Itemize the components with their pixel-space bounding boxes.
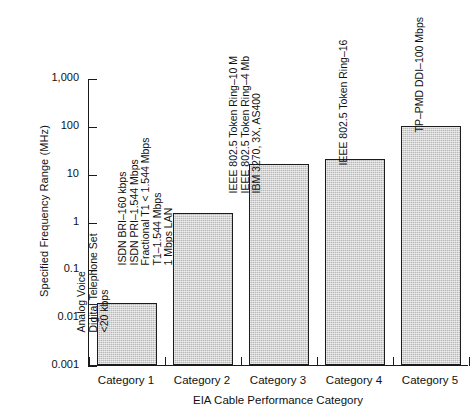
x-tick-mark [317, 357, 318, 366]
y-tick-label: 1,000 [9, 71, 79, 83]
y-tick-label: 0.001 [9, 358, 79, 370]
bar [173, 213, 233, 365]
bar-annotation: TP–PMD DDI–100 Mbps [414, 17, 426, 133]
category-label: Category 1 [88, 374, 164, 386]
x-tick-mark [241, 357, 242, 366]
bar-chart: Specified Frequency Range (MHz) 1,000100… [0, 0, 475, 416]
y-tick-label: 100 [9, 119, 79, 131]
y-tick-mark [88, 366, 97, 367]
bar-annotation: IEEE 802.5 Token Ring–16 [338, 40, 350, 166]
x-tick-mark [393, 357, 394, 366]
y-tick-label: 10 [9, 167, 79, 179]
bar [249, 164, 309, 365]
x-tick-mark [165, 357, 166, 366]
bar-annotation: ISDN BRI–160 kbpsISDN PRI–1.544 MbpsFrac… [117, 138, 175, 266]
category-label: Category 2 [164, 374, 240, 386]
y-tick-label: 1 [9, 215, 79, 227]
y-tick-label: 0.01 [9, 310, 79, 322]
y-tick-mark [88, 175, 97, 176]
bar [401, 126, 461, 365]
category-label: Category 4 [316, 374, 392, 386]
bar [325, 159, 385, 365]
annotation-line: IBM 3270, 3X, AS400 [250, 56, 262, 194]
annotation-line: TP–PMD DDI–100 Mbps [414, 17, 426, 133]
annotation-line: <20 kbps [98, 233, 110, 332]
x-tick-mark [89, 357, 90, 366]
annotation-line: IEEE 802.5 Token Ring–16 [338, 40, 350, 166]
annotation-line: IEEE 802.5 Token Ring–10 M [227, 56, 239, 194]
annotation-line: 1 Mbps LAN [163, 138, 175, 266]
y-tick-mark [88, 127, 97, 128]
x-tick-mark [469, 357, 470, 366]
bar-annotation: IEEE 802.5 Token Ring–10 MIEEE 802.5 Tok… [227, 56, 262, 194]
y-tick-mark [88, 79, 97, 80]
bar-annotation: Analog VoiceDigital Telephone Set<20 kbp… [75, 233, 110, 332]
x-axis-title: EIA Cable Performance Category [88, 394, 468, 406]
annotation-line: Analog Voice [75, 233, 87, 332]
category-label: Category 3 [240, 374, 316, 386]
category-label: Category 5 [392, 374, 468, 386]
y-tick-mark [88, 223, 97, 224]
y-tick-label: 0.1 [9, 262, 79, 274]
